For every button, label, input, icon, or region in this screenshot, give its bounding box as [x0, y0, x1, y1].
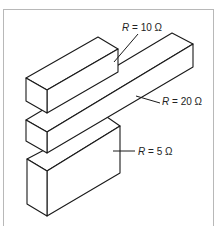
leader-line-20ohm	[136, 96, 160, 103]
label-10ohm: R = 10 Ω	[122, 22, 163, 33]
resistor-blocks-diagram: R = 10 Ω R = 20 Ω R = 5 Ω	[0, 0, 219, 226]
label-5ohm: R = 5 Ω	[138, 146, 173, 157]
label-20ohm: R = 20 Ω	[162, 96, 203, 107]
